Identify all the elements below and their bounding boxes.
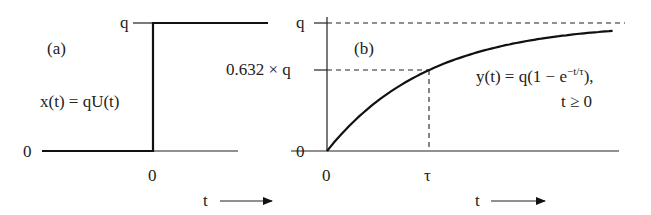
- panel-a-y-tick-zero: 0: [23, 142, 32, 161]
- panel-b-x-tick-zero: 0: [322, 166, 331, 185]
- panel-b-y-tick-mid: 0.632 × q: [226, 60, 291, 79]
- panel-b: (b) q 0.632 × q 0 0 τ y(t) = q(1 − e−t/τ…: [226, 13, 625, 210]
- panel-a-tag: (a): [47, 39, 66, 58]
- panel-b-tag: (b): [354, 39, 374, 58]
- panel-a-step-line: [42, 23, 268, 151]
- panel-b-y-tick-q: q: [296, 13, 305, 32]
- panel-b-equation: y(t) = q(1 − e−t/τ),: [476, 65, 594, 86]
- panel-b-equation-exponent: −t/τ: [567, 65, 584, 77]
- step-response-figure: (a) x(t) = qU(t) q 0 0 t (b) q 0.632 × q…: [0, 0, 651, 215]
- panel-a-x-tick-zero: 0: [148, 166, 157, 185]
- panel-b-equation-condition: t ≥ 0: [561, 92, 592, 111]
- panel-b-equation-tail: ),: [584, 67, 594, 86]
- panel-a-equation: x(t) = qU(t): [40, 92, 119, 111]
- panel-a-x-axis-label: t: [203, 191, 208, 210]
- panel-b-x-tick-tau: τ: [424, 166, 431, 185]
- panel-b-equation-main: y(t) = q(1 − e: [476, 67, 567, 86]
- panel-a-y-tick-q: q: [120, 13, 129, 32]
- panel-a: (a) x(t) = qU(t) q 0 0 t: [23, 13, 272, 210]
- panel-b-x-axis-label: t: [475, 191, 480, 210]
